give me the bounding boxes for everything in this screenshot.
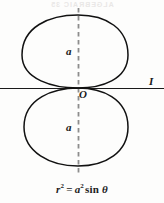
figure-caption: r2=a2sin θ xyxy=(0,182,164,195)
polar-curve-plot xyxy=(0,0,164,203)
caption-r-exponent: 2 xyxy=(60,182,64,190)
caption-a-exponent: 2 xyxy=(80,182,84,190)
caption-theta: θ xyxy=(102,183,108,195)
label-axis-I: I xyxy=(149,76,153,87)
label-a-upper: a xyxy=(66,46,72,57)
lower-lobe-curve xyxy=(24,88,128,166)
upper-lobe-curve xyxy=(22,15,128,88)
caption-sin: sin xyxy=(85,183,99,195)
label-origin-O: O xyxy=(79,89,87,100)
caption-equals: = xyxy=(66,183,72,195)
label-a-lower: a xyxy=(66,122,72,133)
figure-container: ALGEBRAIC 35 a a O I r2=a2sin θ xyxy=(0,0,164,203)
